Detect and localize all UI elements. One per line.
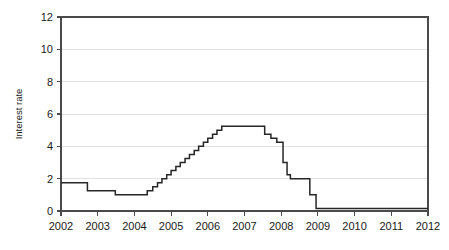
y-tick-label-0: 0 <box>47 205 53 217</box>
x-tick-label-2009: 2009 <box>306 220 330 232</box>
x-tick-label-2011: 2011 <box>379 220 403 232</box>
x-tick-label-2008: 2008 <box>269 220 293 232</box>
data-series-interest-rate <box>61 126 428 208</box>
x-tick-label-2010: 2010 <box>342 220 366 232</box>
y-axis-ticks: 024681012 <box>41 11 61 217</box>
x-tick-label-2007: 2007 <box>232 220 256 232</box>
y-axis-title: Interest rate <box>13 89 24 140</box>
x-axis-ticks: 2002200320042005200620072008200920102011… <box>49 211 440 232</box>
gridlines <box>61 17 428 211</box>
x-tick-label-2003: 2003 <box>85 220 109 232</box>
y-tick-label-10: 10 <box>41 43 53 55</box>
y-tick-label-4: 4 <box>47 140 53 152</box>
x-tick-label-2012: 2012 <box>416 220 440 232</box>
x-tick-label-2006: 2006 <box>196 220 220 232</box>
y-tick-label-12: 12 <box>41 11 53 23</box>
y-tick-label-6: 6 <box>47 108 53 120</box>
chart-container: 024681012 200220032004200520062007200820… <box>0 0 449 250</box>
interest-rate-line-chart: 024681012 200220032004200520062007200820… <box>0 0 449 250</box>
y-tick-label-2: 2 <box>47 173 53 185</box>
x-tick-label-2002: 2002 <box>49 220 73 232</box>
x-tick-label-2005: 2005 <box>159 220 183 232</box>
x-tick-label-2004: 2004 <box>122 220 146 232</box>
y-tick-label-8: 8 <box>47 76 53 88</box>
